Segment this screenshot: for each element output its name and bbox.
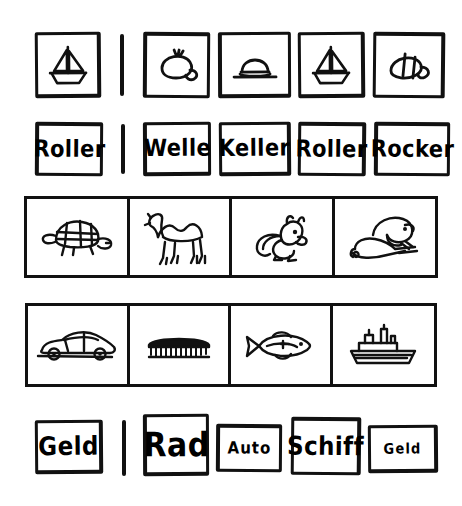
- row5-option-2[interactable]: Auto: [216, 424, 282, 472]
- car-icon: [34, 326, 120, 364]
- row4-picture-strip: [25, 303, 437, 387]
- row3-picture-strip: [24, 196, 438, 278]
- row5-option-2-label: Auto: [228, 440, 272, 457]
- row2-option-4[interactable]: Rocker: [374, 122, 450, 177]
- ship-icon: [343, 321, 423, 369]
- sailboat-icon: [43, 42, 91, 86]
- beret-cap-icon: [152, 45, 202, 85]
- row2-divider: [121, 124, 125, 174]
- row2-prompt-box[interactable]: Roller: [35, 122, 103, 176]
- beaver-on-log-icon: [343, 209, 427, 265]
- camel-icon: [139, 206, 219, 268]
- row1-option-1[interactable]: [143, 32, 210, 98]
- row5-divider: [122, 420, 126, 476]
- row2-option-3[interactable]: Roller: [298, 122, 367, 177]
- row3-option-4[interactable]: [335, 199, 435, 275]
- row2-option-2-label: Keller: [219, 136, 291, 160]
- row1-divider: [120, 34, 124, 96]
- row4-option-1[interactable]: [28, 306, 130, 384]
- row2-option-3-label: Roller: [295, 137, 367, 161]
- row1-option-2[interactable]: [218, 32, 291, 98]
- row1-option-3[interactable]: [298, 32, 366, 99]
- row5-option-1[interactable]: Rad: [143, 414, 209, 476]
- row2-option-4-label: Rocker: [371, 137, 455, 161]
- brush-icon: [139, 331, 219, 359]
- row2-prompt-label: Roller: [33, 137, 105, 161]
- row5-option-3-label: Schiff: [287, 433, 364, 460]
- row5-prompt-box[interactable]: Geld: [35, 420, 103, 475]
- row4-option-3[interactable]: [231, 306, 333, 384]
- brimmed-hat-icon: [228, 45, 282, 83]
- tortoise-icon: [36, 214, 118, 260]
- row2-option-1-label: Welle: [144, 137, 211, 161]
- row2-option-1[interactable]: Welle: [143, 122, 211, 176]
- row5-prompt-label: Geld: [38, 433, 99, 459]
- squirrel-icon: [246, 208, 318, 266]
- row4-option-2[interactable]: [130, 306, 232, 384]
- row3-option-1[interactable]: [27, 199, 130, 275]
- row3-option-3[interactable]: [232, 199, 335, 275]
- row5-option-3[interactable]: Schiff: [291, 417, 362, 476]
- row5-option-1-label: Rad: [143, 428, 209, 462]
- row1-prompt-box[interactable]: [35, 32, 102, 99]
- row5-option-4[interactable]: Geld: [368, 425, 438, 474]
- worksheet-page: Roller Welle Keller Roller Rocker: [0, 0, 462, 506]
- fish-icon: [239, 328, 321, 362]
- row2-option-2[interactable]: Keller: [219, 122, 291, 177]
- segmented-cap-icon: [382, 46, 434, 85]
- sailboat-icon: [307, 42, 355, 86]
- row4-option-4[interactable]: [333, 306, 434, 384]
- row3-option-2[interactable]: [130, 199, 233, 275]
- row1-option-4[interactable]: [373, 32, 446, 99]
- row5-option-4-label: Geld: [383, 441, 421, 456]
